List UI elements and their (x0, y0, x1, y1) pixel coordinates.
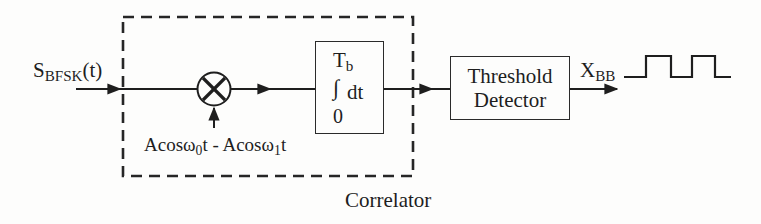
integrator-lower-limit: 0 (333, 106, 343, 126)
integrator-upper-limit: Tb (333, 50, 353, 74)
integrand: dt (347, 82, 363, 103)
output-signal-main: X (580, 58, 595, 82)
bfsk-receiver-diagram: SBFSK(t) Acosω0t - Acosω1t Tb ∫ dt 0 Thr… (0, 0, 761, 224)
reference-signal-label: Acosω0t - Acosω1t (144, 135, 286, 158)
upper-limit-main: T (333, 48, 346, 72)
correlator-label: Correlator (345, 190, 431, 211)
ref-part2: t - Acosω (202, 134, 274, 155)
ref-sub-1: 1 (274, 143, 281, 158)
ref-part3: t (281, 134, 286, 155)
integral-sign-icon: ∫ (333, 77, 339, 99)
upper-limit-sub: b (346, 58, 354, 74)
detector-label-line2: Detector (451, 89, 569, 112)
integrator-block: Tb ∫ dt 0 (315, 41, 384, 134)
output-signal-label: XBB (580, 60, 615, 84)
input-signal-sub: BFSK (45, 68, 83, 84)
output-signal-sub: BB (595, 68, 615, 84)
input-signal-main: S (33, 58, 45, 82)
multiplier-icon (198, 73, 231, 106)
detector-label-line1: Threshold (451, 65, 569, 88)
ref-part1: Acosω (144, 134, 196, 155)
input-signal-label: SBFSK(t) (33, 60, 102, 84)
threshold-detector-block: Threshold Detector (450, 56, 570, 120)
square-wave-icon (624, 56, 731, 77)
input-signal-suffix: (t) (82, 58, 102, 82)
